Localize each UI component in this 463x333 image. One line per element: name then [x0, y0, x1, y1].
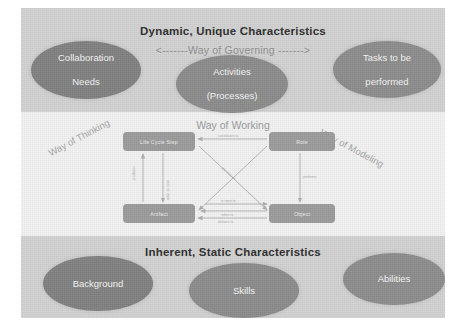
ellipse-tasks-line1: Tasks to be: [359, 52, 415, 64]
ellipse-abilities[interactable]: Abilities: [343, 253, 445, 305]
ellipse-collaboration-needs-line2: Needs: [54, 76, 118, 88]
edge-label-7: delivers to: [218, 220, 234, 224]
ellipse-activities[interactable]: Activities (Processes): [176, 55, 288, 113]
node-life-cycle-step-label: Life Cycle Step: [140, 139, 178, 145]
ellipse-activities-line1: Activities: [203, 66, 262, 78]
ellipse-collaboration-needs-line1: Collaboration: [54, 52, 118, 64]
edge-label-4: operates on: [220, 166, 236, 181]
ellipse-activities-line2: (Processes): [203, 90, 262, 102]
edge-label-5: is input to: [221, 199, 236, 203]
edge-label-3: performs: [303, 175, 317, 179]
node-life-cycle-step[interactable]: Life Cycle Step: [123, 132, 195, 151]
ellipse-abilities-label: Abilities: [374, 273, 415, 285]
node-object[interactable]: Object: [269, 204, 335, 223]
ellipse-tasks-to-be-performed[interactable]: Tasks to be performed: [333, 41, 441, 98]
inner-diagram: contributes to performs delivers to prod…: [117, 132, 349, 228]
ellipse-skills-label: Skills: [229, 285, 259, 297]
node-role-label: Role: [296, 139, 307, 145]
ellipse-background-label: Background: [69, 278, 128, 290]
diagram-figure: Dynamic, Unique Characteristics <-------…: [21, 8, 445, 318]
edge-label-0: contributes to: [218, 134, 238, 138]
ellipse-collaboration-needs[interactable]: Collaboration Needs: [31, 41, 141, 99]
edge-label-6: refers to: [221, 213, 234, 217]
node-artifact[interactable]: Artifact: [123, 204, 195, 223]
node-artifact-label: Artifact: [150, 211, 168, 217]
ellipse-skills[interactable]: Skills: [189, 263, 299, 318]
band-title-dynamic: Dynamic, Unique Characteristics: [21, 25, 445, 37]
edge-label-2: uses as input: [166, 180, 170, 200]
node-role[interactable]: Role: [269, 132, 335, 151]
node-object-label: Object: [294, 211, 310, 217]
edge-label-1: produces: [132, 166, 136, 180]
ellipse-background[interactable]: Background: [43, 256, 153, 311]
ellipse-tasks-line2: performed: [359, 76, 415, 88]
